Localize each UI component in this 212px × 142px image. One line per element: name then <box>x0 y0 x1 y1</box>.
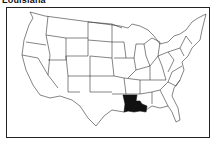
map-frame <box>7 8 210 138</box>
state-louisiana[interactable] <box>123 95 147 112</box>
us-map <box>0 0 212 142</box>
state-borders <box>22 12 206 126</box>
